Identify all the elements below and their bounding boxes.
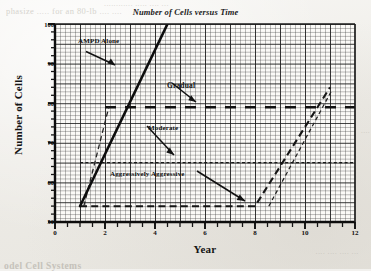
annotation-label-moderate: Moderate xyxy=(148,124,178,132)
annotation-label-ampd-alone: AMPD Alone xyxy=(78,37,119,45)
annotation-label-gradual: Gradual xyxy=(167,81,195,90)
annotation-label-aggressively-aggressive: Aggressively Aggressive xyxy=(110,170,185,178)
